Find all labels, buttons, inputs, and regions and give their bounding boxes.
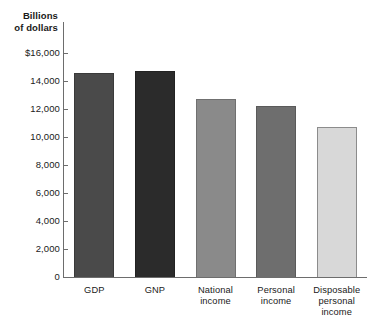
x-axis-label-disposable-personal-income: Disposablepersonalincome (306, 285, 367, 318)
bar-gdp (74, 73, 114, 277)
y-axis-tick-label: $16,000 (2, 48, 60, 58)
y-axis-tick-label: 4,000 (2, 216, 60, 226)
y-axis-tick (63, 137, 68, 138)
x-axis-label-national-income: Nationalincome (185, 285, 246, 307)
bar-disposable-personal-income (317, 127, 357, 277)
x-axis-label-line: GNP (125, 285, 186, 296)
bar-gnp (135, 71, 175, 277)
bar-chart: Billions of dollars $16,00014,00012,0001… (0, 0, 373, 329)
x-axis-label-gnp: GNP (125, 285, 186, 296)
y-axis-tick (63, 165, 68, 166)
y-axis-tick (63, 53, 68, 54)
y-axis-tick-label: 6,000 (2, 188, 60, 198)
x-axis-label-line: income (185, 296, 246, 307)
y-axis-tick-label: 14,000 (2, 76, 60, 86)
bar-national-income (196, 99, 236, 277)
x-axis-label-line: GDP (64, 285, 125, 296)
y-axis-tick-label: 12,000 (2, 104, 60, 114)
x-axis-label-line: National (185, 285, 246, 296)
x-axis-label-gdp: GDP (64, 285, 125, 296)
x-axis-line (63, 277, 367, 278)
y-axis-line (63, 22, 64, 278)
x-axis-label-line: Personal (246, 285, 307, 296)
x-axis-label-line: Disposable (306, 285, 367, 296)
y-axis-tick (63, 277, 68, 278)
y-axis-tick-label: 2,000 (2, 244, 60, 254)
y-axis-tick (63, 249, 68, 250)
y-axis-tick-label: 10,000 (2, 132, 60, 142)
y-axis-tick (63, 109, 68, 110)
y-axis-tick (63, 221, 68, 222)
y-axis-tick-label: 8,000 (2, 160, 60, 170)
x-axis-label-line: personal (306, 296, 367, 307)
y-axis-title-line-2: of dollars (0, 22, 58, 34)
y-axis-title-line-1: Billions (0, 10, 58, 22)
y-axis-title: Billions of dollars (0, 10, 58, 33)
x-axis-label-line: income (246, 296, 307, 307)
y-axis-tick-label: 0 (2, 272, 60, 282)
x-axis-label-line: income (306, 307, 367, 318)
y-axis-tick (63, 193, 68, 194)
bar-personal-income (256, 106, 296, 277)
y-axis-tick (63, 81, 68, 82)
x-axis-label-personal-income: Personalincome (246, 285, 307, 307)
